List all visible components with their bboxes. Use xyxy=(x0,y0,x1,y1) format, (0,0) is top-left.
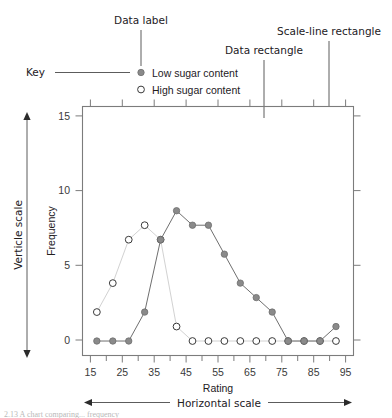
data-point xyxy=(141,309,147,315)
horizontal-scale-annotation: Horizontal scale xyxy=(84,397,352,409)
data-point xyxy=(205,222,211,228)
y-axis-title: Frequency xyxy=(45,205,57,255)
y-tick-label: 15 xyxy=(58,110,70,122)
data-point xyxy=(189,338,196,345)
x-tick-label: 95 xyxy=(340,366,352,378)
data-point xyxy=(237,280,243,286)
data-point xyxy=(253,294,259,300)
data-point xyxy=(93,309,100,316)
data-point xyxy=(94,338,100,344)
data-point xyxy=(126,338,132,344)
annotation-scale-line-rectangle: Scale-line rectangle xyxy=(277,25,381,37)
annotation-key-label: Key xyxy=(26,66,45,78)
data-point xyxy=(173,323,180,330)
top-axis-ticks xyxy=(90,100,345,107)
data-point xyxy=(141,222,148,229)
vertical-scale-label: Verticle scale xyxy=(12,200,24,270)
x-tick-label: 35 xyxy=(148,366,160,378)
y-tick-label: 0 xyxy=(64,334,70,346)
vertical-scale-arrow-head-down xyxy=(23,350,30,358)
right-axis-ticks xyxy=(354,116,361,340)
figure-root: Key Data label Data rectangle Scale-line… xyxy=(0,0,392,418)
data-point xyxy=(189,222,195,228)
legend: Low sugar content High sugar content xyxy=(138,67,241,96)
x-tick-label: 55 xyxy=(212,366,224,378)
x-tick-label: 65 xyxy=(244,366,256,378)
x-tick-label: 85 xyxy=(308,366,320,378)
data-point xyxy=(157,236,163,242)
chart-figure: Key Data label Data rectangle Scale-line… xyxy=(0,0,392,418)
annotation-data-rectangle: Data rectangle xyxy=(225,44,303,56)
series-line xyxy=(97,225,336,341)
x-axis-ticks xyxy=(90,356,345,363)
y-tick-label: 10 xyxy=(58,184,70,196)
data-point xyxy=(269,338,276,345)
x-axis-tick-labels: 15 25 35 45 55 65 75 85 95 xyxy=(85,366,352,378)
annotation-data-label: Data label xyxy=(114,14,168,26)
data-point xyxy=(221,338,228,345)
legend-marker-low-sugar xyxy=(138,69,144,75)
data-point xyxy=(269,309,275,315)
data-point xyxy=(237,338,244,345)
series-line xyxy=(97,211,336,341)
x-tick-label: 15 xyxy=(85,366,97,378)
horizontal-scale-arrow-head-left xyxy=(84,399,92,406)
x-tick-label: 75 xyxy=(276,366,288,378)
x-tick-label: 25 xyxy=(116,366,128,378)
data-point xyxy=(205,338,212,345)
data-point xyxy=(285,338,291,344)
data-point xyxy=(253,338,260,345)
horizontal-scale-label: Horizontal scale xyxy=(177,397,261,409)
vertical-scale-annotation: Verticle scale xyxy=(12,112,31,358)
data-series-layer xyxy=(93,208,339,345)
y-tick-label: 5 xyxy=(64,259,70,271)
x-axis-title: Rating xyxy=(203,382,234,394)
data-point xyxy=(317,338,323,344)
data-point xyxy=(333,338,340,345)
data-point xyxy=(125,236,132,243)
series-low-sugar xyxy=(94,208,340,345)
y-axis: 0 5 10 15 xyxy=(58,110,82,346)
data-point xyxy=(221,251,227,257)
data-point xyxy=(173,208,179,214)
data-point xyxy=(109,280,116,287)
legend-marker-high-sugar xyxy=(138,86,145,93)
vertical-scale-arrow-head-up xyxy=(23,112,30,120)
horizontal-scale-arrow-head-right xyxy=(344,399,352,406)
data-point xyxy=(110,338,116,344)
plot-frame xyxy=(83,107,354,356)
legend-label-high-sugar: High sugar content xyxy=(152,84,240,96)
data-point xyxy=(333,323,339,329)
legend-label-low-sugar: Low sugar content xyxy=(152,67,238,79)
x-tick-label: 45 xyxy=(180,366,192,378)
page-caption: 2.13 A chart comparing... frequency xyxy=(4,410,119,418)
data-point xyxy=(301,338,307,344)
